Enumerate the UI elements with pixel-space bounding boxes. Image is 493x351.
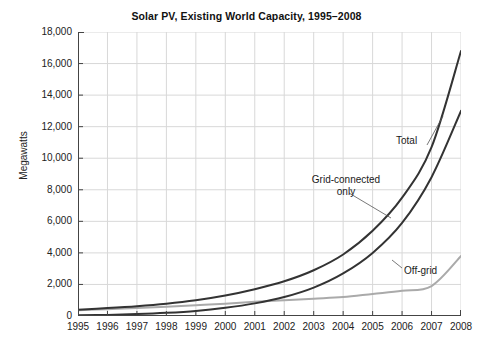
y-tick-label: 16,000 <box>26 59 72 69</box>
series-label-off-grid: Off-grid <box>404 265 437 277</box>
y-tick-label: 0 <box>26 311 72 321</box>
y-tick-label: 12,000 <box>26 122 72 132</box>
page-title: Solar PV, Existing World Capacity, 1995–… <box>0 10 493 22</box>
y-tick-label: 8,000 <box>26 185 72 195</box>
y-tick-label: 4,000 <box>26 248 72 258</box>
y-tick-label: 2,000 <box>26 279 72 289</box>
y-tick-label: 14,000 <box>26 90 72 100</box>
y-tick-label: 6,000 <box>26 216 72 226</box>
chart-screenshot: Solar PV, Existing World Capacity, 1995–… <box>0 0 493 351</box>
series-label-grid-connected: Grid-connected only <box>300 174 392 198</box>
y-tick-label: 18,000 <box>26 27 72 37</box>
y-tick-label: 10,000 <box>26 153 72 163</box>
x-tick-label: 2008 <box>440 322 482 332</box>
leader-line-off-grid <box>392 260 402 268</box>
series-label-total: Total <box>396 135 417 147</box>
